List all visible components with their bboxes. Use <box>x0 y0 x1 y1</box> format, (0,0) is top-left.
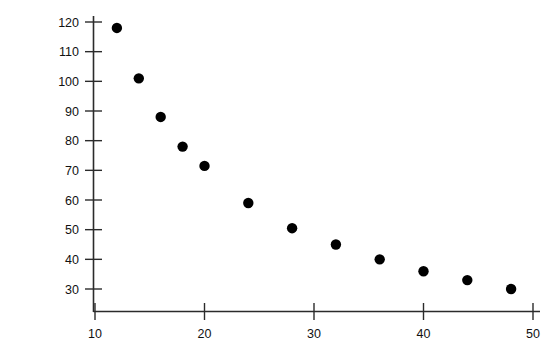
data-point <box>462 275 472 285</box>
x-tick-label: 10 <box>88 327 102 341</box>
y-tick-label: 100 <box>58 75 79 89</box>
y-tick-label: 90 <box>65 105 79 119</box>
y-tick-label: 60 <box>65 194 79 208</box>
x-tick-label: 20 <box>198 327 212 341</box>
x-tick-label: 50 <box>526 327 540 341</box>
data-point <box>112 23 122 33</box>
data-point <box>134 73 144 83</box>
data-point <box>199 161 209 171</box>
x-tick-label: 40 <box>417 327 431 341</box>
y-tick-label: 30 <box>65 283 79 297</box>
data-points <box>112 23 517 294</box>
data-point <box>331 239 341 249</box>
data-point <box>177 141 187 151</box>
data-point <box>418 266 428 276</box>
scatter-chart: Pressure (in. of Hg) 3040506070809010011… <box>0 0 549 344</box>
x-axis-ticks: 1020304050 <box>88 303 540 341</box>
x-tick-label: 30 <box>307 327 321 341</box>
y-tick-label: 70 <box>65 164 79 178</box>
y-tick-label: 40 <box>65 253 79 267</box>
data-point <box>243 198 253 208</box>
data-point <box>156 112 166 122</box>
plot-area: 30405060708090100110120 1020304050 <box>0 0 549 344</box>
data-point <box>506 284 516 294</box>
y-tick-label: 50 <box>65 223 79 237</box>
y-tick-label: 120 <box>58 16 79 30</box>
y-tick-label: 80 <box>65 134 79 148</box>
y-tick-label: 110 <box>59 45 79 59</box>
y-axis-ticks: 30405060708090100110120 <box>58 16 102 297</box>
data-point <box>287 223 297 233</box>
data-point <box>375 254 385 264</box>
